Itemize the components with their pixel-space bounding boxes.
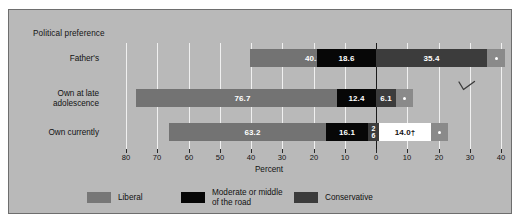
ticklabel-20: 20	[310, 153, 318, 162]
ticklabel-80: 80	[122, 153, 130, 162]
ticklabel-70: 70	[153, 153, 161, 162]
legend-swatch-conservative	[294, 192, 318, 203]
legend-label-moderate: Moderate or middle of the road	[212, 188, 283, 207]
ticklabel-neg20: 20	[435, 153, 443, 162]
marker-dot-icon	[495, 57, 498, 60]
category-label-own-adolescence-line2: adolescence	[53, 99, 99, 109]
segment-own-adolescence-nodata[interactable]	[396, 89, 413, 107]
legend-swatch-liberal	[87, 192, 111, 203]
category-label-own-adolescence-line1: Own at late	[53, 89, 99, 99]
segment-own-currently-conservative[interactable]: 2 6	[368, 123, 379, 141]
segment-value-own-currently-liberal: 63.2	[245, 128, 261, 137]
category-label-own-currently: Own currently	[48, 128, 99, 138]
segment-value-own-currently-other: 14.0†	[395, 128, 416, 137]
legend-label-moderate-line1: Moderate or middle	[212, 188, 283, 198]
chart-plate: Political preference 80 70 60 50	[8, 9, 512, 214]
category-label-fathers: Father's	[70, 54, 99, 64]
marker-dot-icon	[438, 131, 441, 134]
segment-own-currently-other[interactable]: 14.0†	[379, 123, 431, 141]
ticklabel-60: 60	[185, 153, 193, 162]
segment-own-currently-liberal[interactable]: 63.2	[169, 123, 336, 141]
legend-label-conservative-line1: Conservative	[325, 193, 373, 203]
segment-own-currently-nodata[interactable]	[431, 123, 448, 141]
segment-own-adolescence-moderate[interactable]: 12.4	[337, 89, 376, 107]
legend-swatch-moderate	[181, 192, 205, 203]
figure-root: Political preference 80 70 60 50	[0, 0, 520, 224]
segment-fathers-moderate[interactable]: 18.6	[317, 49, 376, 67]
legend-label-moderate-line2: of the road	[212, 198, 283, 208]
legend-label-liberal: Liberal	[118, 193, 143, 203]
segment-value-own-adolescence-liberal: 76.7	[235, 94, 251, 103]
page-title: Political preference	[33, 29, 105, 38]
category-label-own-currently-line1: Own currently	[48, 128, 99, 137]
segment-own-adolescence-liberal[interactable]: 76.7	[136, 89, 349, 107]
segment-value-own-adolescence-conservative: 6.1	[380, 94, 391, 103]
segment-fathers-nodata[interactable]	[487, 49, 505, 67]
segment-fathers-conservative[interactable]: 35.4	[376, 49, 487, 67]
segment-own-adolescence-conservative[interactable]: 6.1	[376, 89, 396, 107]
ticklabel-10: 10	[341, 153, 349, 162]
ticklabel-50: 50	[216, 153, 224, 162]
gridline-80	[126, 43, 127, 149]
category-label-fathers-line1: Father's	[70, 54, 99, 63]
marker-dot-icon	[403, 97, 406, 100]
ticklabel-40: 40	[247, 153, 255, 162]
segment-value-own-adolescence-moderate: 12.4	[349, 94, 365, 103]
category-label-own-adolescence: Own at late adolescence	[53, 89, 99, 109]
ticklabel-neg30: 30	[466, 153, 474, 162]
x-axis-label: Percent	[9, 165, 520, 174]
ticklabel-neg40: 40	[497, 153, 505, 162]
segment-own-currently-moderate[interactable]: 16.1	[326, 123, 368, 141]
legend-label-liberal-line1: Liberal	[118, 193, 143, 203]
ticklabel-0: 0	[374, 153, 378, 162]
ticklabel-30: 30	[278, 153, 286, 162]
ticklabel-neg10: 10	[403, 153, 411, 162]
legend-label-conservative: Conservative	[325, 193, 373, 203]
segment-value-own-currently-conservative-bottom: 6	[372, 132, 376, 139]
segment-value-fathers-conservative: 35.4	[424, 54, 440, 63]
segment-value-fathers-moderate: 18.6	[339, 54, 355, 63]
segment-value-own-currently-moderate: 16.1	[339, 128, 355, 137]
handwritten-pen-mark-icon	[458, 80, 476, 92]
segment-value-own-currently-conservative-top: 2	[372, 125, 376, 132]
